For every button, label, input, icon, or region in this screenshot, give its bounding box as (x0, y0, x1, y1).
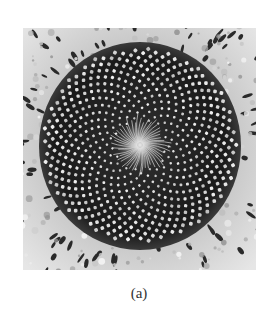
figure-caption: (a) (0, 283, 278, 303)
figure: (a) (0, 0, 278, 316)
sunflower-photo (23, 28, 256, 270)
sunflower-image (23, 28, 256, 270)
